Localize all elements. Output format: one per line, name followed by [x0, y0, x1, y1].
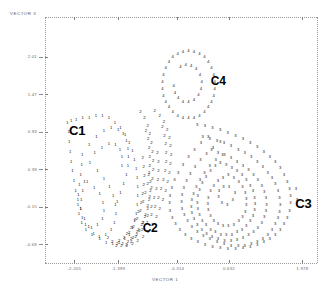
data-point: 3	[279, 228, 281, 232]
data-point: 2	[166, 127, 168, 131]
data-point: 1	[122, 182, 124, 186]
data-point: 1	[103, 177, 105, 181]
data-point: 1	[91, 233, 93, 237]
data-point: 3	[257, 225, 259, 229]
x-tick-label: -2.205	[54, 266, 94, 271]
data-point: 3	[256, 145, 258, 149]
data-point: 3	[217, 179, 219, 183]
data-point: 1	[83, 180, 85, 184]
data-point: 1	[93, 186, 95, 190]
data-point: 3	[288, 209, 290, 213]
data-point: 3	[194, 165, 196, 169]
data-point: 3	[222, 185, 224, 189]
data-point: 3	[227, 131, 229, 135]
data-point: 1	[82, 116, 84, 120]
data-point: 4	[173, 84, 175, 88]
data-point: 3	[205, 152, 207, 156]
data-point: 3	[223, 141, 225, 145]
y-tick-label: 0.39	[3, 167, 37, 172]
data-point: 2	[139, 209, 141, 213]
data-point: 3	[196, 230, 198, 234]
data-point: 4	[198, 52, 200, 56]
data-point: 3	[227, 173, 229, 177]
data-point: 3	[260, 184, 262, 188]
data-point: 4	[200, 80, 202, 84]
data-point: 3	[218, 189, 220, 193]
data-point: 3	[197, 207, 199, 211]
data-point: 3	[205, 175, 207, 179]
data-point: 2	[162, 178, 164, 182]
data-point: 1	[135, 167, 137, 171]
data-point: 3	[252, 173, 254, 177]
data-point: 3	[283, 222, 285, 226]
data-point: 3	[260, 221, 262, 225]
data-point: 3	[274, 182, 276, 186]
data-point: 1	[86, 180, 88, 184]
data-point: 3	[245, 178, 247, 182]
data-point: 1	[116, 200, 118, 204]
data-point: 4	[176, 114, 178, 118]
data-point: 3	[177, 171, 179, 175]
data-point: 2	[165, 160, 167, 164]
data-point: 3	[265, 196, 267, 200]
data-point: 2	[142, 156, 144, 160]
data-point: 3	[223, 153, 225, 157]
data-point: 1	[108, 142, 110, 146]
data-point: 2	[136, 230, 138, 234]
data-point: 3	[192, 191, 194, 195]
data-point: 4	[193, 116, 195, 120]
data-point: 3	[288, 187, 290, 191]
cluster-label-c4: C4	[211, 75, 226, 87]
data-point: 2	[162, 198, 164, 202]
data-point: 1	[136, 203, 138, 207]
data-point: 2	[158, 207, 160, 211]
data-point: 3	[216, 139, 218, 143]
data-point: 1	[114, 143, 116, 147]
data-point: 3	[168, 201, 170, 205]
data-point: 3	[180, 200, 182, 204]
data-point: 2	[143, 174, 145, 178]
data-point: 1	[124, 133, 126, 137]
data-point: 2	[131, 242, 133, 246]
data-point: 3	[233, 176, 235, 180]
data-point: 3	[170, 186, 172, 190]
data-point: 1	[73, 179, 75, 183]
data-point: 3	[234, 134, 236, 138]
data-point: 2	[149, 180, 151, 184]
data-point: 3	[247, 168, 249, 172]
data-point: 2	[152, 168, 154, 172]
data-point: 4	[203, 110, 205, 114]
data-point: 2	[157, 169, 159, 173]
data-point: 3	[185, 179, 187, 183]
data-point: 2	[118, 239, 120, 243]
data-point: 3	[250, 155, 252, 159]
data-point: 2	[153, 196, 155, 200]
data-point: 3	[204, 124, 206, 128]
data-point: 4	[177, 96, 179, 100]
data-point: 1	[105, 241, 107, 245]
data-point: 3	[230, 244, 232, 248]
data-point: 2	[168, 136, 170, 140]
data-point: 3	[181, 193, 183, 197]
data-point: 1	[112, 194, 114, 198]
data-point: 1	[89, 161, 91, 165]
data-point: 3	[217, 237, 219, 241]
data-point: 1	[81, 152, 83, 156]
data-point: 3	[244, 191, 246, 195]
data-point: 2	[152, 159, 154, 163]
data-point: 3	[237, 180, 239, 184]
data-point: 2	[148, 198, 150, 202]
data-point: 3	[277, 189, 279, 193]
data-point: 1	[108, 185, 110, 189]
data-point: 1	[94, 151, 96, 155]
data-point: 3	[241, 173, 243, 177]
data-point: 1	[80, 198, 82, 202]
data-point: 3	[253, 196, 255, 200]
data-point: 3	[236, 238, 238, 242]
data-point: 3	[205, 232, 207, 236]
data-point: 2	[136, 217, 138, 221]
data-point: 1	[88, 143, 90, 147]
data-point: 3	[209, 168, 211, 172]
data-point: 4	[198, 114, 200, 118]
data-point: 3	[221, 201, 223, 205]
